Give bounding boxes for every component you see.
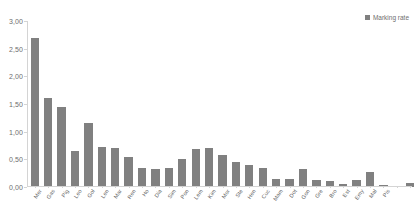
x-tick-mark: [48, 186, 49, 188]
x-tick-label: Ho: [141, 188, 150, 197]
x-tick-label: Gre: [314, 188, 324, 199]
x-tick-mark: [62, 186, 63, 188]
x-tick-mark: [115, 186, 116, 188]
x-tick-label: Hen: [246, 188, 257, 200]
x-tick-mark: [169, 186, 170, 188]
x-tick-label: Pon: [179, 188, 190, 200]
x-tick-mark: [223, 186, 224, 188]
y-tick-label: 0,00: [9, 184, 23, 191]
plot-area: [28, 21, 417, 187]
x-tick-label: Est: [341, 188, 351, 198]
x-axis-line: [28, 186, 412, 187]
y-tick-mark: [24, 187, 27, 188]
legend-swatch-marking-rate: [365, 15, 370, 20]
x-tick-mark: [276, 186, 277, 188]
x-tick-mark: [303, 186, 304, 188]
bar: [151, 169, 159, 187]
x-tick-mark: [75, 186, 76, 188]
x-tick-mark: [249, 186, 250, 188]
x-tick-label: Mer: [32, 188, 43, 199]
x-tick-label: Sim: [166, 188, 177, 199]
bar: [44, 98, 52, 187]
x-tick-label: Lem: [192, 188, 203, 200]
bar: [57, 107, 65, 187]
x-tick-mark: [182, 186, 183, 188]
x-tick-label: Gon: [300, 188, 311, 200]
x-tick-mark: [88, 186, 89, 188]
x-tick-label: Mor: [220, 188, 231, 199]
x-tick-label: Dia: [154, 188, 164, 198]
bar: [192, 149, 200, 187]
bar: [111, 148, 119, 187]
y-axis: 3,002,502,001,501,000,500,00: [0, 0, 26, 218]
x-tick-mark: [383, 186, 384, 188]
y-tick-mark: [24, 132, 27, 133]
x-tick-mark: [397, 186, 398, 188]
x-tick-label: Ren: [126, 188, 137, 200]
x-tick-label: Mam: [272, 188, 284, 202]
x-tick-mark: [343, 186, 344, 188]
y-tick-label: 1,50: [9, 101, 23, 108]
x-tick-label: Emy: [353, 188, 364, 201]
x-axis: MerGasPigLeoGolLenMarRenHoDiaSimPonLemKi…: [28, 188, 417, 218]
x-tick-label: Kim: [206, 188, 217, 199]
y-tick-mark: [24, 159, 27, 160]
bar: [31, 38, 39, 187]
bar: [299, 169, 307, 187]
bar: [218, 155, 226, 187]
bar: [259, 168, 267, 187]
y-tick-label: 2,50: [9, 45, 23, 52]
bar: [138, 168, 146, 187]
x-tick-label: Ste: [234, 188, 244, 198]
x-tick-label: Len: [99, 188, 109, 199]
bar: [98, 147, 106, 187]
bar: [178, 159, 186, 187]
y-tick-label: 0,50: [9, 156, 23, 163]
x-tick-label: Mal: [368, 188, 378, 199]
chart-legend: Marking rate: [365, 14, 409, 21]
x-tick-mark: [35, 186, 36, 188]
x-tick-mark: [316, 186, 317, 188]
x-tick-label: Pig: [60, 188, 70, 198]
x-tick-mark: [209, 186, 210, 188]
x-tick-mark: [129, 186, 130, 188]
bar-chart: 3,002,502,001,501,000,500,00 MerGasPigLe…: [0, 0, 417, 218]
y-tick-mark: [24, 49, 27, 50]
bar: [245, 165, 253, 187]
x-tick-label: Leo: [72, 188, 82, 199]
x-tick-mark: [236, 186, 237, 188]
bar: [232, 162, 240, 187]
x-tick-label: Gas: [45, 188, 56, 200]
x-tick-mark: [330, 186, 331, 188]
bar: [165, 168, 173, 187]
x-tick-mark: [357, 186, 358, 188]
x-tick-label: Mar: [113, 188, 124, 199]
x-tick-mark: [102, 186, 103, 188]
y-tick-label: 2,00: [9, 73, 23, 80]
x-tick-label: Gol: [86, 188, 96, 199]
y-tick-mark: [24, 21, 27, 22]
y-tick-label: 1,00: [9, 128, 23, 135]
y-tick-mark: [24, 76, 27, 77]
x-tick-mark: [370, 186, 371, 188]
x-tick-mark: [410, 186, 411, 188]
x-tick-mark: [142, 186, 143, 188]
bar: [366, 172, 374, 187]
y-tick-label: 3,00: [9, 18, 23, 25]
x-tick-label: Bro: [328, 188, 338, 199]
x-tick-label: Pis: [382, 188, 391, 198]
bar: [205, 148, 213, 187]
x-tick-label: Cuc: [260, 188, 271, 200]
x-tick-label: Dot: [287, 188, 297, 199]
x-tick-mark: [263, 186, 264, 188]
x-tick-mark: [196, 186, 197, 188]
bar: [124, 157, 132, 187]
bar: [84, 123, 92, 187]
x-tick-mark: [290, 186, 291, 188]
legend-label-marking-rate: Marking rate: [373, 14, 409, 21]
x-tick-mark: [155, 186, 156, 188]
y-tick-mark: [24, 104, 27, 105]
bar: [71, 151, 79, 187]
